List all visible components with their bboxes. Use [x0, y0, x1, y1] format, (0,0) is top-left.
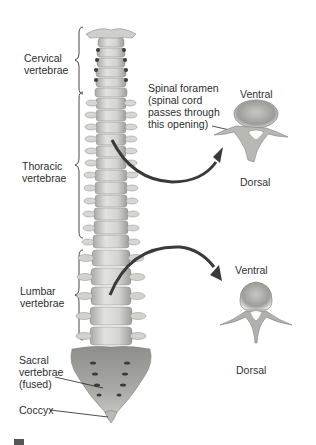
- label-thoracic-dorsal: Dorsal: [240, 176, 270, 188]
- corner-marker: [14, 439, 24, 445]
- lumbar-cross-section: [220, 282, 292, 343]
- cervical-bracket: [75, 27, 83, 94]
- thoracic-bracket: [75, 92, 83, 238]
- label-thoracic-ventral: Ventral: [240, 88, 273, 100]
- label-spinal-foramen: Spinal foramen (spinal cord passes throu…: [148, 82, 220, 130]
- label-lumbar-ventral: Ventral: [235, 264, 268, 276]
- vertebral-column: [71, 29, 151, 423]
- coccyx-leader: [50, 410, 108, 417]
- sacrum: [71, 346, 151, 419]
- thoracic-cross-section: [214, 100, 288, 162]
- label-thoracic: Thoracic vertebrae: [22, 160, 66, 184]
- label-lumbar: Lumbar vertebrae: [20, 285, 64, 309]
- label-cervical: Cervical vertebrae: [24, 52, 68, 76]
- label-lumbar-dorsal: Dorsal: [236, 364, 266, 376]
- label-coccyx: Coccyx: [19, 404, 53, 416]
- label-sacral: Sacral vertebrae (fused): [19, 354, 63, 390]
